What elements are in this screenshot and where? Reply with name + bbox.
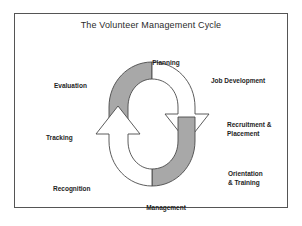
diagram-page: The Volunteer Management Cycle Planning … — [0, 0, 302, 226]
stage-label-recruitment-line2: Placement — [227, 130, 271, 139]
stage-label-planning: Planning — [15, 59, 302, 68]
cycle-band-lower-right — [152, 117, 195, 186]
cycle-arrows-graphic — [88, 54, 218, 194]
stage-label-orientation-training: Orientation & Training — [228, 170, 263, 188]
diagram-title: The Volunteer Management Cycle — [15, 20, 287, 30]
stage-label-recruitment-line1: Recruitment & — [227, 121, 271, 128]
stage-label-job-development: Job Development — [211, 77, 265, 86]
stage-label-orientation-line1: Orientation — [228, 170, 263, 177]
stage-label-tracking: Tracking — [46, 134, 73, 143]
stage-label-orientation-line2: & Training — [228, 179, 263, 188]
cycle-arrow-lower-left — [96, 106, 152, 186]
stage-label-evaluation: Evaluation — [54, 82, 87, 91]
stage-label-recruitment-placement: Recruitment & Placement — [227, 121, 271, 139]
stage-label-recognition: Recognition — [53, 185, 91, 194]
diagram-frame: The Volunteer Management Cycle Planning … — [14, 13, 288, 208]
stage-label-management: Management — [15, 204, 302, 213]
